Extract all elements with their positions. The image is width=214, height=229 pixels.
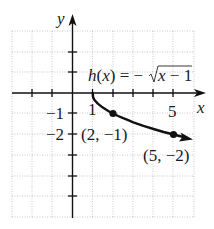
svg-text:x − 1: x − 1: [157, 66, 192, 85]
point-label-5-neg2: (5, −2): [143, 146, 189, 165]
point-2-neg1: [109, 110, 116, 117]
y-axis: [68, 14, 77, 218]
svg-text:h(x) = −: h(x) = −: [88, 66, 143, 85]
tick-label-y-neg2: −2: [46, 125, 64, 144]
grid: [12, 31, 194, 217]
x-axis: [12, 89, 206, 97]
function-graph: y x 1 5 −1 −2 h(x) = − x − 1 (2, −1) (5,…: [0, 0, 214, 229]
tick-label-x-5: 5: [168, 102, 177, 121]
point-label-2-neg1: (2, −1): [81, 125, 127, 144]
tick-label-y-neg1: −1: [46, 104, 64, 123]
point-5-neg2: [170, 131, 177, 138]
x-axis-label: x: [196, 98, 205, 117]
function-label: h(x) = − x − 1: [88, 66, 192, 85]
y-axis-label: y: [55, 9, 65, 28]
tick-label-x-1: 1: [88, 100, 97, 119]
